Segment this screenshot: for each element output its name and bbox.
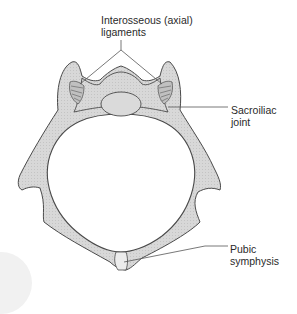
pubic-symphysis [115, 252, 128, 270]
sacral-vertebral-body [101, 92, 141, 116]
label-sacroiliac-joint: Sacroiliac joint [231, 104, 277, 128]
label-line: symphysis [230, 255, 279, 267]
label-line: Pubic [230, 243, 279, 255]
label-pubic-symphysis: Pubic symphysis [230, 243, 279, 267]
label-line: joint [231, 116, 277, 128]
label-line: ligaments [101, 26, 193, 38]
label-line: Sacroiliac [231, 104, 277, 116]
label-interosseous-ligaments: Interosseous (axial) ligaments [101, 14, 193, 38]
label-line: Interosseous (axial) [101, 14, 193, 26]
